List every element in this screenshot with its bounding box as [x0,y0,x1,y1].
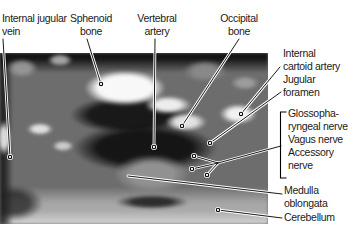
label-sphenoid-bone: Sphenoid bone [61,12,121,38]
label-layer: Internal jugular vein Sphenoid bone Vert… [0,0,348,229]
anatomy-figure: Internal jugular vein Sphenoid bone Vert… [0,0,348,229]
label-occipital-bone: Occipital bone [209,12,269,38]
label-medulla-oblongata: Medulla oblongata [284,184,346,210]
label-cerebellum: Cerebellum [284,211,346,224]
label-cranial-nerves-group: Glossopha- ryngeal nerve Vagus nerve Acc… [288,107,348,172]
label-internal-cartoid-artery: Internal cartoid artery [283,47,348,73]
label-jugular-foramen: Jugular foramen [283,73,345,99]
label-vertebral-artery: Vertebral artery [127,12,187,38]
